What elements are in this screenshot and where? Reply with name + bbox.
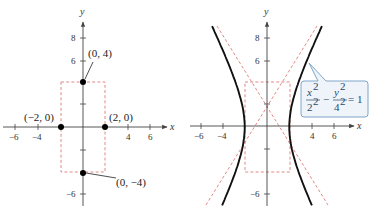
eq-x-num-exp: 2 — [313, 80, 319, 92]
right-graph: x y −6 −4 4 6 8 6 −6 x 2 2 2 − y — [190, 6, 368, 206]
y-axis-label: y — [79, 6, 85, 17]
x-tick-label: −4 — [217, 131, 227, 141]
y-tick-label: 6 — [255, 56, 260, 66]
eq-equals-one: = 1 — [348, 93, 362, 105]
point-0-neg4 — [80, 170, 86, 176]
point-label-2-0: (2, 0) — [109, 111, 133, 124]
point-neg2-0 — [58, 124, 64, 130]
eq-y-num-exp: 2 — [340, 80, 346, 92]
leader-line — [85, 62, 93, 79]
x-tick-label: 4 — [126, 132, 131, 142]
equation-callout: x 2 2 2 − y 2 4 2 = 1 — [301, 63, 368, 117]
hyperbola-left-branch — [212, 26, 245, 205]
x-axis-label: x — [356, 120, 362, 131]
y-tick-label: −6 — [66, 189, 76, 199]
y-axis-label: y — [263, 6, 269, 17]
point-label-neg2-0: (−2, 0) — [24, 111, 54, 124]
x-axis-label: x — [169, 121, 175, 132]
x-tick-label: −6 — [194, 131, 204, 141]
y-tick-label: 8 — [71, 33, 76, 43]
eq-x-denominator: 2 — [307, 101, 313, 113]
y-tick-label: −6 — [250, 189, 260, 199]
eq-x-numerator: x — [306, 86, 312, 98]
x-tick-label: 4 — [310, 131, 315, 141]
x-tick-label: −6 — [9, 132, 19, 142]
eq-minus: − — [323, 93, 329, 105]
x-tick-label: −4 — [32, 132, 42, 142]
left-graph: x y −6 −4 4 6 8 6 −6 (0, 4) (−2, 0) (2, … — [3, 6, 175, 206]
point-0-4 — [80, 79, 86, 85]
y-tick-label: 6 — [71, 56, 76, 66]
diagram-canvas: x y −6 −4 4 6 8 6 −6 (0, 4) (−2, 0) (2, … — [0, 0, 377, 215]
x-tick-label: 6 — [332, 131, 337, 141]
eq-x-den-exp: 2 — [313, 95, 319, 107]
point-2-0 — [102, 124, 108, 130]
point-label-0-4: (0, 4) — [88, 47, 112, 60]
point-label-0-neg4: (0, −4) — [116, 176, 146, 189]
eq-y-numerator: y — [333, 86, 339, 98]
eq-y-den-exp: 2 — [340, 95, 346, 107]
x-tick-label: 6 — [148, 132, 153, 142]
dashed-rectangle — [245, 82, 290, 172]
y-tick-label: 8 — [255, 33, 260, 43]
leader-line — [86, 173, 116, 178]
